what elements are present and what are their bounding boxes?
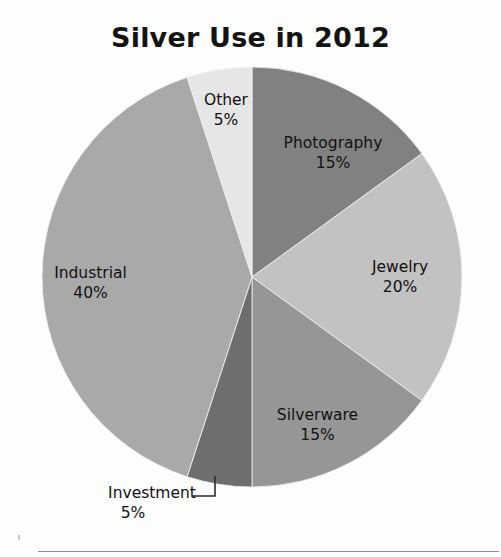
pie-label-other: Other 5% — [183, 90, 269, 131]
pie-label-other-value: 5% — [183, 110, 269, 130]
page-rule — [38, 551, 499, 552]
pie-label-photography-value: 15% — [258, 153, 408, 173]
pie-label-investment-name: Investment — [108, 483, 196, 503]
pie-label-photography: Photography 15% — [258, 133, 408, 174]
page-speck — [18, 535, 20, 540]
pie-label-jewelry: Jewelry 20% — [345, 257, 455, 298]
pie-label-photography-name: Photography — [258, 133, 408, 153]
pie-label-industrial-name: Industrial — [28, 263, 153, 283]
pie-label-silverware-name: Silverware — [250, 405, 385, 425]
pie-label-other-name: Other — [183, 90, 269, 110]
pie-label-investment: Investment 5% — [72, 483, 232, 524]
pie-label-jewelry-name: Jewelry — [345, 257, 455, 277]
pie-label-silverware-value: 15% — [250, 425, 385, 445]
pie-label-investment-value: 5% — [72, 503, 194, 523]
pie-label-industrial: Industrial 40% — [28, 263, 153, 304]
pie-label-industrial-value: 40% — [28, 283, 153, 303]
chart-figure: Silver Use in 2012 Photography 15% Jewel… — [0, 0, 501, 557]
pie-label-silverware: Silverware 15% — [250, 405, 385, 446]
pie-label-jewelry-value: 20% — [345, 277, 455, 297]
